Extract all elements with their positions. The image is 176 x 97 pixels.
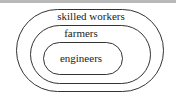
nested-sets-diagram: skilled workers farmers engineers <box>0 0 176 97</box>
set-label-farmers: farmers <box>64 27 98 39</box>
set-label-skilled-workers: skilled workers <box>57 10 125 22</box>
set-label-engineers: engineers <box>60 52 102 64</box>
